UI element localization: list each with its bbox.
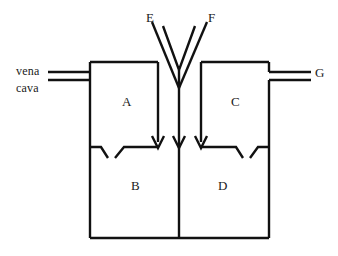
- heart-diagram: E F G vena cava A C B D: [0, 0, 338, 256]
- heart-schematic-svg: [0, 0, 338, 256]
- left-av-valve-inner-flap: [115, 147, 158, 158]
- chamber-d-label: D: [218, 179, 228, 192]
- vessel-g-label: G: [315, 66, 325, 79]
- vessel-f-label: F: [208, 11, 215, 24]
- vena-label: vena: [16, 65, 39, 78]
- cava-label: cava: [16, 82, 39, 95]
- chamber-b-label: B: [131, 179, 140, 192]
- right-av-valve-outer-flap: [250, 147, 269, 158]
- chamber-a-label: A: [122, 95, 132, 108]
- left-av-valve-outer-flap: [90, 147, 108, 158]
- chamber-c-label: C: [231, 95, 240, 108]
- vessel-e-label: E: [146, 11, 154, 24]
- right-av-valve-inner-flap: [201, 147, 243, 158]
